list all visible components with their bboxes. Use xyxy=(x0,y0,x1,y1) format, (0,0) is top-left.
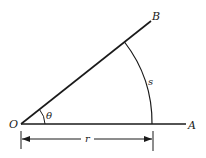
label-angle-theta: θ xyxy=(46,110,52,121)
angle-theta-arc xyxy=(40,110,46,125)
label-radius-r: r xyxy=(85,133,91,144)
angle-arc-diagram: O B A θ s r xyxy=(0,0,206,158)
label-arc-s: s xyxy=(148,76,153,87)
label-vertex-o: O xyxy=(9,118,18,131)
ray-ob xyxy=(21,21,151,124)
label-point-a: A xyxy=(187,119,196,132)
label-point-b: B xyxy=(151,10,160,23)
